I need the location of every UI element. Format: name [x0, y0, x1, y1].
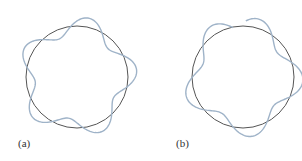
panel-label-a: (a)	[18, 137, 30, 149]
panel-label-b: (b)	[176, 137, 189, 149]
orbit-circle-a	[26, 26, 128, 128]
orbit-circle-b	[192, 26, 294, 128]
wave-b	[186, 19, 302, 137]
wave-a	[23, 18, 137, 133]
diagram-canvas	[0, 0, 302, 161]
